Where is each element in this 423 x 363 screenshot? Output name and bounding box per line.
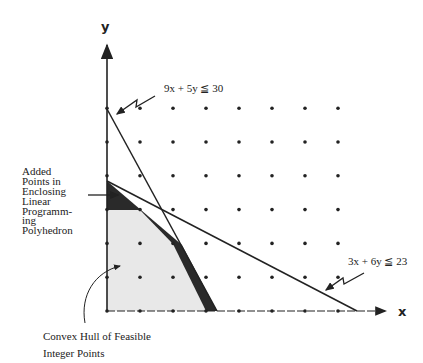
lattice-point <box>336 174 340 178</box>
lattice-point <box>171 242 175 246</box>
svg-text:Polyhedron: Polyhedron <box>22 224 73 236</box>
lattice-point <box>270 140 274 144</box>
x-axis-label: x <box>398 304 407 319</box>
lattice-point <box>237 208 241 212</box>
lattice-point <box>336 275 340 279</box>
lp-diagram: y x 9x + 5y ≦ 30 3x + 6y ≦ 23 Added Poin… <box>0 0 423 363</box>
added-points-annotation: Added Points in Enclosing Linear Program… <box>22 165 73 236</box>
lattice-point <box>204 106 208 110</box>
lattice-point <box>237 242 241 246</box>
lattice-point <box>237 140 241 144</box>
lattice-point <box>171 275 175 279</box>
lattice-point <box>303 275 307 279</box>
lattice-point <box>336 208 340 212</box>
lattice-point <box>171 106 175 110</box>
lattice-point <box>138 275 142 279</box>
lattice-point <box>171 208 175 212</box>
lattice-point <box>303 208 307 212</box>
lattice-point <box>270 174 274 178</box>
lattice-point <box>270 275 274 279</box>
lattice-point <box>204 174 208 178</box>
lattice-point <box>303 174 307 178</box>
zigzag-arrow-icon <box>326 273 364 290</box>
lattice-point <box>303 242 307 246</box>
lattice-point <box>171 174 175 178</box>
lattice-point <box>204 275 208 279</box>
lattice-point <box>237 174 241 178</box>
lattice-point <box>204 208 208 212</box>
lattice-point <box>237 106 241 110</box>
y-axis-label: y <box>101 19 110 34</box>
lattice-point <box>336 140 340 144</box>
convex-hull-label-line-2: Integer Points <box>43 347 104 359</box>
lattice-point <box>171 140 175 144</box>
lattice-point <box>138 140 142 144</box>
lattice-point <box>270 208 274 212</box>
lattice-point <box>204 140 208 144</box>
constraint-label-1: 9x + 5y ≦ 30 <box>164 82 224 94</box>
lattice-point <box>303 140 307 144</box>
lattice-point <box>138 208 142 212</box>
lattice-point <box>303 106 307 110</box>
zigzag-arrow-icon <box>117 96 155 114</box>
lattice-point <box>336 106 340 110</box>
lattice-point <box>270 106 274 110</box>
lattice-point <box>138 242 142 246</box>
lattice-point <box>270 242 274 246</box>
lattice-point <box>138 174 142 178</box>
convex-hull-label-line-1: Convex Hull of Feasible <box>43 330 151 342</box>
lattice-point <box>336 242 340 246</box>
lattice-point <box>237 275 241 279</box>
constraint-label-2: 3x + 6y ≦ 23 <box>348 255 408 267</box>
lattice-point <box>204 242 208 246</box>
lattice-point <box>138 106 142 110</box>
